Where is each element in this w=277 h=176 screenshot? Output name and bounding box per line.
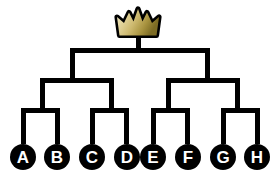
semifinal-left-leg-outer	[40, 78, 45, 111]
semifinal-right-leg-outer	[235, 78, 240, 111]
match-e-vs-f-leg-e	[151, 108, 156, 144]
team-label-h: H	[251, 149, 263, 166]
semifinal-left-horizontal-connector	[40, 78, 114, 83]
final-right-vertical	[205, 48, 210, 82]
final-left-vertical	[70, 48, 75, 82]
tournament-bracket-figure: A B C D E F G H	[0, 0, 277, 176]
semifinal-right-horizontal-connector	[166, 78, 240, 83]
match-c-vs-d-leg-c	[90, 108, 95, 144]
semifinal-right-leg-inner	[166, 78, 171, 111]
final-horizontal-connector	[70, 48, 210, 53]
team-node-f[interactable]: F	[175, 144, 201, 170]
team-node-g[interactable]: G	[210, 144, 236, 170]
match-a-vs-b-leg-a	[21, 108, 26, 144]
team-node-e[interactable]: E	[140, 144, 166, 170]
team-node-d[interactable]: D	[114, 144, 140, 170]
champion-crown	[113, 6, 163, 40]
team-label-f: F	[183, 149, 193, 166]
team-label-e: E	[147, 149, 158, 166]
team-node-b[interactable]: B	[44, 144, 70, 170]
team-label-a: A	[17, 149, 29, 166]
match-c-vs-d-leg-d	[124, 108, 129, 144]
match-e-vs-f-leg-f	[185, 108, 190, 144]
team-label-g: G	[216, 149, 229, 166]
team-label-b: B	[51, 149, 63, 166]
match-g-vs-h-leg-g	[221, 108, 226, 144]
match-g-vs-h-leg-h	[255, 108, 260, 144]
crown-icon	[113, 6, 163, 40]
team-node-a[interactable]: A	[10, 144, 36, 170]
semifinal-left-leg-inner	[109, 78, 114, 111]
team-label-c: C	[86, 149, 98, 166]
match-a-vs-b-leg-b	[55, 108, 60, 144]
team-node-h[interactable]: H	[244, 144, 270, 170]
team-node-c[interactable]: C	[79, 144, 105, 170]
team-label-d: D	[121, 149, 133, 166]
